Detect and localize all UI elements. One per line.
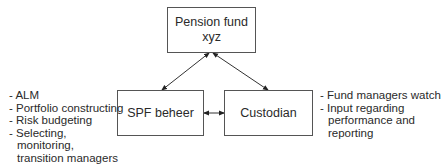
node-pension-fund-line1: Pension fund — [175, 15, 248, 30]
list-item: - Portfolio constructing — [9, 102, 123, 115]
list-item: - Input regarding — [320, 102, 441, 115]
node-custodian: Custodian — [224, 90, 313, 136]
list-item: reporting — [320, 127, 441, 140]
node-spf-beheer-label: SPF beheer — [127, 106, 194, 121]
custodian-responsibilities-list: - Fund managers watch - Input regarding … — [320, 89, 441, 139]
list-item: - Risk budgeting — [9, 114, 123, 127]
list-item: transition managers — [9, 152, 123, 165]
node-spf-beheer: SPF beheer — [117, 90, 204, 136]
list-item: - Fund managers watch — [320, 89, 441, 102]
list-item: - Selecting, — [9, 127, 123, 140]
list-item: performance and — [320, 114, 441, 127]
arrow-top-to-spf — [162, 53, 209, 90]
node-custodian-label: Custodian — [240, 106, 296, 121]
arrow-top-to-custodian — [213, 53, 268, 90]
spf-responsibilities-list: - ALM - Portfolio constructing - Risk bu… — [9, 89, 123, 165]
list-item: monitoring, — [9, 139, 123, 152]
node-pension-fund-line2: xyz — [202, 30, 221, 45]
node-pension-fund: Pension fund xyz — [167, 7, 256, 53]
list-item: - ALM — [9, 89, 123, 102]
